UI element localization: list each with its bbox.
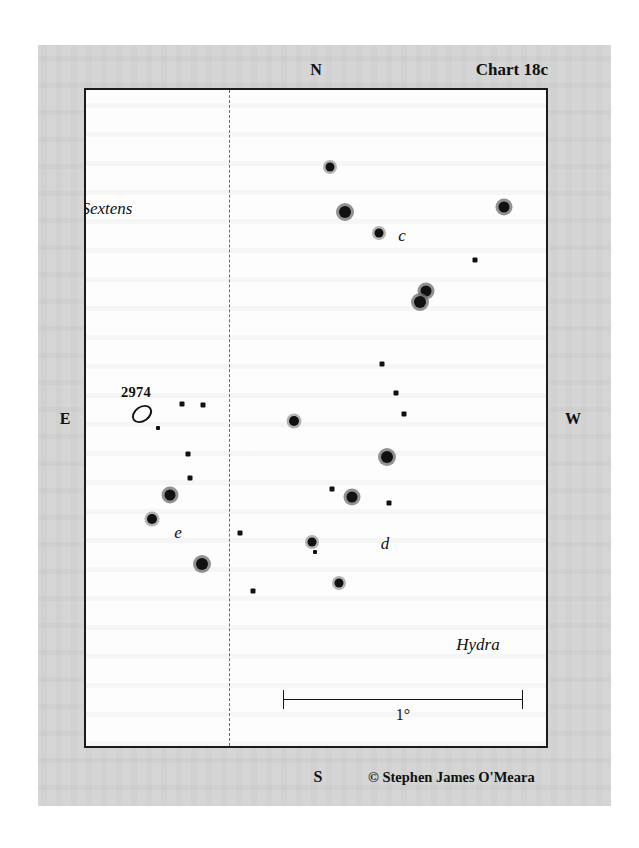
constellation-label: Sextens (86, 199, 132, 219)
star-marker (375, 229, 384, 238)
galaxy-label: 2974 (121, 384, 151, 401)
star-marker (335, 579, 344, 588)
star-designation-label: d (381, 534, 390, 554)
faint-star-marker (330, 487, 335, 492)
faint-star-marker (156, 426, 160, 430)
star-marker (347, 492, 358, 503)
meridian-dashed-line (229, 90, 230, 746)
copyright-credit: © Stephen James O'Meara (368, 769, 535, 786)
star-marker (147, 514, 157, 524)
star-marker (381, 451, 393, 463)
star-chart-plot-area: 2974SextensHydracde1° (86, 90, 546, 746)
star-designation-label: e (174, 523, 182, 543)
faint-star-marker (238, 531, 243, 536)
cardinal-north-label: N (310, 61, 322, 79)
scale-bar-label: 1° (396, 706, 410, 724)
cardinal-west-label: W (565, 410, 581, 428)
star-marker (165, 490, 176, 501)
galaxy-symbol (128, 401, 155, 427)
faint-star-marker (394, 391, 399, 396)
scale-bar-line (283, 699, 523, 700)
constellation-label: Hydra (456, 635, 499, 655)
scale-bar-tick-right (522, 690, 523, 709)
star-marker (339, 206, 351, 218)
page-background: N S E W Chart 18c © Stephen James O'Mear… (0, 0, 639, 848)
star-marker (308, 538, 317, 547)
faint-star-marker (186, 452, 191, 457)
star-marker (196, 558, 208, 570)
faint-star-marker (201, 403, 206, 408)
star-chart-frame: 2974SextensHydracde1° (84, 88, 548, 748)
star-marker (414, 296, 426, 308)
faint-star-marker (188, 476, 193, 481)
chart-id-label: Chart 18c (476, 60, 548, 80)
faint-star-marker (380, 362, 385, 367)
faint-star-marker (387, 501, 392, 506)
faint-star-marker (473, 258, 478, 263)
star-designation-label: c (398, 226, 406, 246)
star-marker (499, 202, 510, 213)
faint-star-marker (180, 402, 185, 407)
scale-bar-tick-left (283, 690, 284, 709)
faint-star-marker (402, 412, 407, 417)
cardinal-east-label: E (60, 410, 71, 428)
star-marker (326, 163, 335, 172)
star-marker (289, 416, 299, 426)
faint-star-marker (313, 550, 317, 554)
cardinal-south-label: S (314, 768, 323, 786)
star-marker (421, 286, 432, 297)
faint-star-marker (251, 589, 256, 594)
